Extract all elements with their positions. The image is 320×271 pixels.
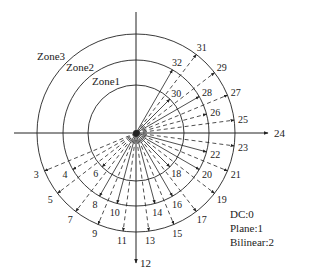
- mode-label-9: 9: [92, 228, 97, 239]
- legend-dc: DC:0: [230, 207, 274, 221]
- mode-label-15: 15: [172, 228, 182, 239]
- mode-legend: DC:0 Plane:1 Bilinear:2: [230, 207, 274, 249]
- zone-2-label: Zone2: [66, 61, 94, 73]
- mode-label-19: 19: [217, 194, 227, 205]
- zone-3-label: Zone3: [37, 50, 66, 62]
- mode-label-29: 29: [217, 62, 227, 73]
- mode-label-18: 18: [171, 168, 181, 179]
- mode-label-25: 25: [238, 114, 248, 125]
- ray-mode-10: [117, 133, 136, 204]
- mode-label-23: 23: [238, 142, 248, 153]
- mode-label-6: 6: [93, 168, 98, 179]
- ray-mode-16: [136, 133, 173, 196]
- mode-label-11: 11: [117, 235, 127, 246]
- origin-point: [133, 130, 139, 136]
- mode-label-12: 12: [140, 257, 151, 269]
- mode-label-24: 24: [274, 127, 286, 139]
- mode-label-20: 20: [202, 169, 212, 180]
- mode-label-10: 10: [110, 207, 120, 218]
- mode-label-21: 21: [231, 169, 241, 180]
- ray-mode-28: [136, 97, 199, 134]
- mode-label-14: 14: [152, 207, 162, 218]
- mode-label-5: 5: [48, 194, 53, 205]
- legend-bilinear: Bilinear:2: [230, 235, 274, 249]
- ray-mode-8: [100, 133, 137, 196]
- legend-plane: Plane:1: [230, 221, 274, 235]
- ray-mode-26: [136, 114, 207, 133]
- ray-mode-32: [136, 70, 173, 133]
- mode-label-8: 8: [93, 199, 98, 210]
- mode-label-16: 16: [172, 199, 182, 210]
- mode-label-7: 7: [68, 214, 73, 225]
- mode-label-30: 30: [171, 88, 181, 99]
- mode-label-27: 27: [231, 87, 241, 98]
- mode-label-4: 4: [63, 169, 68, 180]
- mode-label-26: 26: [210, 107, 220, 118]
- ray-mode-20: [136, 133, 199, 170]
- mode-label-3: 3: [34, 169, 39, 180]
- ray-mode-14: [136, 133, 155, 204]
- mode-label-28: 28: [202, 87, 212, 98]
- direction-rays: [45, 55, 235, 232]
- mode-label-22: 22: [210, 149, 220, 160]
- mode-label-17: 17: [197, 214, 207, 225]
- zone-1-label: Zone1: [92, 75, 120, 87]
- ray-mode-4: [73, 133, 136, 170]
- mode-label-32: 32: [172, 57, 182, 68]
- mode-label-13: 13: [145, 235, 155, 246]
- ray-mode-22: [136, 133, 207, 152]
- mode-label-31: 31: [197, 42, 207, 53]
